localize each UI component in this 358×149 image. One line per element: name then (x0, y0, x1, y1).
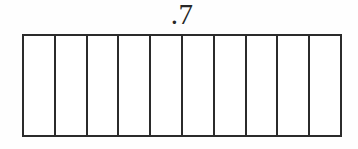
bar-cell[interactable] (247, 36, 279, 135)
label-row: .7 (0, 0, 358, 32)
bar-cell[interactable] (88, 36, 120, 135)
bar-cell[interactable] (151, 36, 183, 135)
bar-cell[interactable] (56, 36, 88, 135)
bar-cell[interactable] (278, 36, 310, 135)
bar-cell[interactable] (183, 36, 215, 135)
bar-cell[interactable] (215, 36, 247, 135)
bar-cell[interactable] (119, 36, 151, 135)
bar-value-label: .7 (22, 0, 342, 29)
bar-cell[interactable] (24, 36, 56, 135)
bar-model (22, 34, 342, 137)
diagram-canvas: .7 (0, 0, 358, 149)
bar-cell[interactable] (310, 36, 340, 135)
